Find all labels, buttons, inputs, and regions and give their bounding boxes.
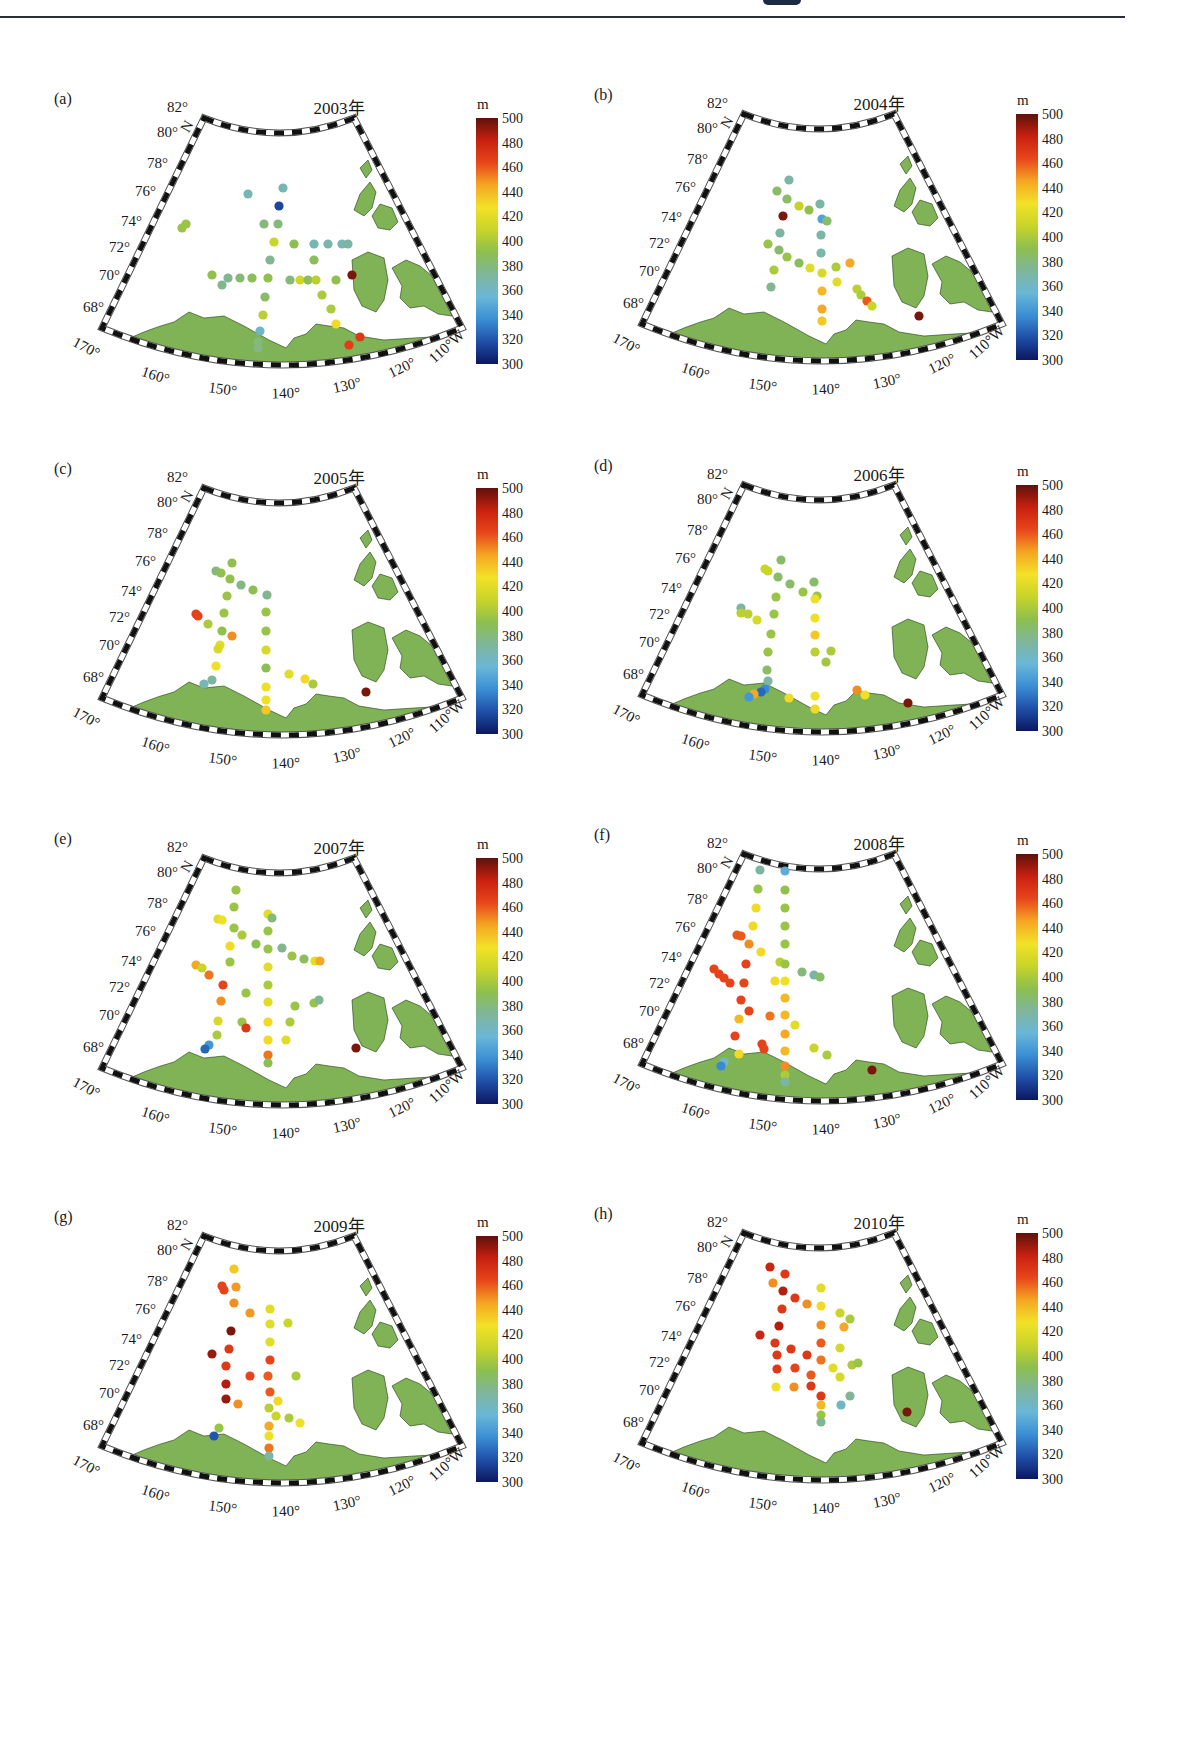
- colorbar-tick: 480: [502, 137, 523, 151]
- station-point: [216, 568, 225, 577]
- station-point: [317, 290, 326, 299]
- colorbar-tick: 360: [1042, 651, 1063, 665]
- station-point: [261, 705, 270, 714]
- colorbar: [1016, 485, 1038, 731]
- station-point: [263, 1058, 272, 1067]
- station-point: [816, 1283, 825, 1292]
- lon-label: 130°: [871, 741, 902, 763]
- station-point: [780, 903, 789, 912]
- header-rule: [0, 16, 1125, 18]
- colorbar-tick: 340: [1042, 305, 1063, 319]
- colorbar-tick: 380: [1042, 996, 1063, 1010]
- lat-label: 68°: [83, 1039, 104, 1055]
- station-point: [308, 679, 317, 688]
- station-point: [816, 1355, 825, 1364]
- colorbar: [1016, 1233, 1038, 1479]
- station-point: [265, 1304, 274, 1313]
- station-point: [860, 690, 869, 699]
- lon-label: 120°: [925, 1469, 958, 1496]
- colorbar-tick: 440: [502, 556, 523, 570]
- lat-label: 72°: [109, 609, 130, 625]
- colorbar-tick: 420: [502, 1328, 523, 1342]
- station-point: [780, 939, 789, 948]
- lon-label: 160°: [140, 1481, 172, 1505]
- colorbar-unit: m: [477, 96, 489, 113]
- colorbar-tick: 420: [1042, 1325, 1063, 1339]
- colorbar-tick: 320: [502, 1073, 523, 1087]
- lat-label: 74°: [121, 213, 142, 229]
- lon-label: 170°: [610, 330, 643, 358]
- colorbar-tick: 340: [1042, 1045, 1063, 1059]
- lat-label: 78°: [147, 525, 168, 541]
- station-point: [835, 1308, 844, 1317]
- station-point: [822, 216, 831, 225]
- station-point: [802, 1299, 811, 1308]
- map-panel-h: (h)2010年82°N80°78°76°74°72°70°68°170°160…: [594, 1205, 1134, 1545]
- station-point: [351, 1043, 360, 1052]
- colorbar-tick: 360: [502, 654, 523, 668]
- colorbar-unit: m: [477, 836, 489, 853]
- colorbar-tick: 320: [1042, 329, 1063, 343]
- lon-label: 160°: [680, 1099, 712, 1123]
- lat-label: 76°: [675, 550, 696, 566]
- colorbar-tick: 480: [1042, 133, 1063, 147]
- station-point: [299, 954, 308, 963]
- station-point: [219, 608, 228, 617]
- data-points: [755, 1262, 911, 1426]
- station-point: [756, 947, 765, 956]
- map-panel-d: (d)2006年82°N80°78°76°74°72°70°68°170°160…: [594, 457, 1134, 797]
- station-point: [245, 1308, 254, 1317]
- station-point: [263, 962, 272, 971]
- station-point: [245, 1371, 254, 1380]
- station-point: [207, 1349, 216, 1358]
- lat-label: 72°: [649, 975, 670, 991]
- station-point: [263, 980, 272, 989]
- colorbar-tick: 360: [1042, 1399, 1063, 1413]
- station-point: [221, 1379, 230, 1388]
- station-point: [782, 252, 791, 261]
- station-point: [218, 980, 227, 989]
- colorbar-tick: 320: [1042, 1069, 1063, 1083]
- station-point: [271, 1411, 280, 1420]
- colorbar-tick: 500: [1042, 108, 1063, 122]
- lon-label: 120°: [925, 350, 958, 377]
- station-point: [259, 219, 268, 228]
- lon-label: 150°: [747, 1115, 777, 1135]
- lon-label: 170°: [610, 1070, 643, 1098]
- colorbar-tick: 400: [1042, 1350, 1063, 1364]
- station-point: [300, 674, 309, 683]
- lat-label: 74°: [121, 1331, 142, 1347]
- lat-label: 72°: [109, 239, 130, 255]
- station-point: [780, 1077, 789, 1086]
- lat-label: 68°: [623, 666, 644, 682]
- station-point: [199, 679, 208, 688]
- station-point: [197, 963, 206, 972]
- colorbar-tick: 460: [1042, 157, 1063, 171]
- station-point: [273, 1396, 282, 1405]
- lat-label: 74°: [661, 949, 682, 965]
- station-point: [229, 1264, 238, 1273]
- station-point: [835, 1372, 844, 1381]
- colorbar-tick: 300: [1042, 354, 1063, 368]
- station-point: [231, 885, 240, 894]
- station-point: [265, 1319, 274, 1328]
- station-point: [766, 629, 775, 638]
- station-point: [248, 585, 257, 594]
- station-point: [809, 1043, 818, 1052]
- station-point: [193, 611, 202, 620]
- colorbar-tick: 340: [502, 309, 523, 323]
- station-point: [821, 657, 830, 666]
- lon-label: 130°: [871, 370, 902, 392]
- station-point: [243, 189, 252, 198]
- lat-label: 78°: [147, 1273, 168, 1289]
- station-point: [762, 665, 771, 674]
- station-point: [260, 292, 269, 301]
- station-point: [771, 1382, 780, 1391]
- lat-label: 68°: [83, 669, 104, 685]
- station-point: [263, 1371, 272, 1380]
- station-point: [902, 1407, 911, 1416]
- colorbar-tick: 340: [502, 1427, 523, 1441]
- station-point: [784, 693, 793, 702]
- station-point: [773, 572, 782, 581]
- station-point: [797, 967, 806, 976]
